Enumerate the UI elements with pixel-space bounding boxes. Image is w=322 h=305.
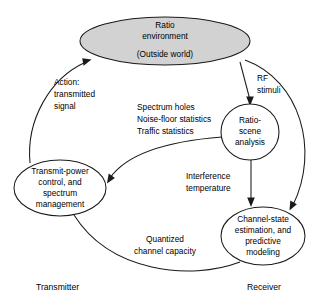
label-interference-temperature: Interference temperature <box>186 171 231 193</box>
label-quantized-channel-capacity-line-2: channel capacity <box>134 246 197 256</box>
label-action-transmitted-signal-line-3: signal <box>54 101 76 111</box>
label-rf-stimuli-line-2: stimuli <box>257 85 281 95</box>
node-channel-state-estimation-line-2: estimation, and <box>235 225 292 235</box>
label-receiver: Receiver <box>247 282 281 292</box>
node-ratio-scene-analysis[interactable]: Ratio- scene analysis <box>221 104 279 160</box>
node-ratio-scene-analysis-line-2: scene <box>239 126 262 136</box>
node-channel-state-estimation-line-3: predictive <box>245 236 281 246</box>
label-transmitter: Transmitter <box>36 282 79 292</box>
label-spectrum-statistics-line-1: Spectrum holes <box>137 102 195 112</box>
edge-interference-temperature-arrowhead <box>247 197 255 207</box>
label-quantized-channel-capacity: Quantized channel capacity <box>134 234 197 256</box>
label-quantized-channel-capacity-line-1: Quantized <box>146 234 184 244</box>
node-transmit-power-control-line-2: control, and <box>38 177 82 187</box>
edge-rf-stimuli <box>240 62 254 106</box>
node-transmit-power-control[interactable]: Transmit-power control, and spectrum man… <box>14 160 106 216</box>
label-interference-temperature-line-1: Interference <box>186 171 231 181</box>
edge-spectrum-statistics-arrowhead <box>107 173 115 183</box>
edge-action-transmitted-signal-arrowhead <box>82 58 91 66</box>
node-ratio-environment[interactable]: Ratio environment (Outside world) <box>80 17 250 65</box>
label-rf-stimuli-line-1: RF <box>257 73 268 83</box>
label-action-transmitted-signal-line-2: transmitted <box>54 89 95 99</box>
label-spectrum-statistics-line-2: Noise-floor statistics <box>137 114 211 124</box>
node-ratio-environment-line-2: environment <box>142 31 188 41</box>
edge-environment-to-channel-state-arrowhead <box>290 200 297 210</box>
node-channel-state-estimation-line-4: modeling <box>246 247 280 257</box>
label-spectrum-statistics: Spectrum holes Noise-floor statistics Tr… <box>137 102 211 136</box>
label-action-transmitted-signal-line-1: Action: <box>54 77 79 87</box>
node-ratio-scene-analysis-line-1: Ratio- <box>239 115 261 125</box>
node-transmit-power-control-line-4: management <box>36 199 85 209</box>
label-spectrum-statistics-line-3: Traffic statistics <box>137 126 194 136</box>
cognitive-radio-cycle-diagram: Ratio environment (Outside world) Ratio-… <box>0 0 322 305</box>
edge-interference-temperature <box>247 160 255 207</box>
label-action-transmitted-signal: Action: transmitted signal <box>54 77 95 111</box>
edge-rf-stimuli-line <box>240 62 250 100</box>
node-ratio-scene-analysis-line-3: analysis <box>235 137 265 147</box>
node-channel-state-estimation-line-1: Channel-state <box>237 214 289 224</box>
node-transmit-power-control-line-3: spectrum <box>43 188 77 198</box>
diagram-canvas: Ratio environment (Outside world) Ratio-… <box>0 0 322 305</box>
label-rf-stimuli: RF stimuli <box>257 73 281 95</box>
node-transmit-power-control-line-1: Transmit-power <box>31 166 89 176</box>
node-ratio-environment-line-1: Ratio <box>155 20 175 30</box>
label-interference-temperature-line-2: temperature <box>186 183 231 193</box>
node-ratio-environment-line-3: (Outside world) <box>137 49 193 59</box>
node-channel-state-estimation[interactable]: Channel-state estimation, and predictive… <box>221 207 305 265</box>
